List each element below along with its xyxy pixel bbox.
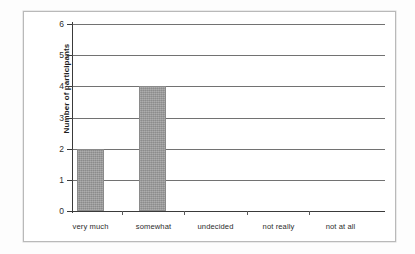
x-category-label-not-at-all: not at all xyxy=(309,222,372,231)
figure-container: Number of participants 0123456 very much… xyxy=(0,0,415,254)
x-category-label-not-really: not really xyxy=(247,222,310,231)
y-tick-label-1: 1 xyxy=(52,176,64,184)
y-tick-label-4: 4 xyxy=(52,82,64,90)
gridline-6 xyxy=(72,24,385,25)
y-tick-label-0: 0 xyxy=(52,207,64,215)
x-tick-2 xyxy=(184,211,185,215)
y-tick-label-5: 5 xyxy=(52,51,64,59)
bar-somewhat xyxy=(139,86,166,211)
gridline-4 xyxy=(72,86,385,87)
bar-very-much xyxy=(77,149,104,211)
plot-area xyxy=(72,24,385,211)
x-category-label-somewhat: somewhat xyxy=(122,222,185,231)
gridline-3 xyxy=(72,118,385,119)
gridline-5 xyxy=(72,55,385,56)
y-tick-label-3: 3 xyxy=(52,114,64,122)
x-tick-4 xyxy=(309,211,310,215)
x-category-label-very-much: very much xyxy=(59,222,122,231)
x-tick-1 xyxy=(122,211,123,215)
y-tick-label-2: 2 xyxy=(52,145,64,153)
y-tick-label-6: 6 xyxy=(52,20,64,28)
x-axis-line xyxy=(72,211,385,212)
x-tick-3 xyxy=(247,211,248,215)
gridline-2 xyxy=(72,149,385,150)
x-category-label-undecided: undecided xyxy=(184,222,247,231)
gridline-1 xyxy=(72,180,385,181)
